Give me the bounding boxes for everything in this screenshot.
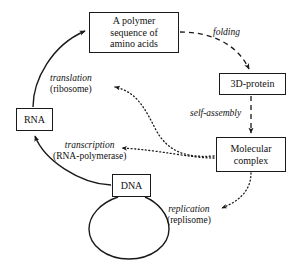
edge-label-translation: translation (ribosome): [50, 73, 92, 95]
dna-circular-loop: [89, 197, 169, 259]
node-polymer-line3: amino acids: [110, 38, 158, 50]
node-polymer-sequence[interactable]: A polymer sequence of amino acids: [89, 12, 179, 53]
edge-label-translation-name: translation: [50, 73, 92, 84]
edge-label-translation-detail: (ribosome): [50, 84, 92, 95]
edge-translation: [115, 87, 214, 156]
node-polymer-line1: A polymer: [113, 15, 156, 27]
edge-label-folding: folding: [213, 27, 240, 38]
node-molecular-complex-line2: complex: [234, 155, 268, 167]
edge-rna-to-polymer: [33, 31, 85, 107]
node-dna-label: DNA: [121, 180, 143, 192]
edge-label-replication: replication (replisome): [167, 204, 211, 226]
node-rna-label: RNA: [24, 114, 45, 126]
node-dna[interactable]: DNA: [112, 174, 151, 197]
edge-label-transcription: transcription (RNA-polymerase): [53, 140, 126, 162]
node-3d-protein-label: 3D-protein: [231, 78, 275, 90]
node-molecular-complex[interactable]: Molecular complex: [216, 137, 286, 172]
node-rna[interactable]: RNA: [16, 108, 53, 131]
edge-transcription: [122, 148, 214, 158]
node-3d-protein[interactable]: 3D-protein: [219, 73, 286, 95]
node-molecular-complex-line1: Molecular: [230, 143, 271, 155]
edge-label-self-assembly-name: self-assembly: [190, 108, 241, 119]
diagram-canvas: A polymer sequence of amino acids 3D-pro…: [0, 0, 300, 265]
edge-replication: [222, 173, 251, 208]
edge-label-replication-detail: (replisome): [167, 215, 211, 226]
edge-label-folding-name: folding: [213, 27, 240, 38]
node-polymer-line2: sequence of: [110, 27, 157, 39]
edge-label-self-assembly: self-assembly: [190, 108, 241, 119]
edge-label-replication-name: replication: [167, 204, 211, 215]
edge-label-transcription-detail: (RNA-polymerase): [53, 151, 126, 162]
edge-label-transcription-name: transcription: [53, 140, 126, 151]
